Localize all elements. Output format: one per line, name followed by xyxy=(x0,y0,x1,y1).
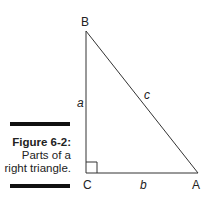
side-b-label: b xyxy=(140,178,147,192)
side-c-label: c xyxy=(144,88,150,102)
vertex-b-label: B xyxy=(81,15,89,29)
right-angle-marker xyxy=(86,162,97,173)
triangle xyxy=(86,31,198,173)
vertex-a-label: A xyxy=(192,178,200,192)
side-a-label: a xyxy=(77,96,84,110)
right-triangle-diagram: B C A a b c xyxy=(0,0,223,204)
vertex-c-label: C xyxy=(83,178,92,192)
